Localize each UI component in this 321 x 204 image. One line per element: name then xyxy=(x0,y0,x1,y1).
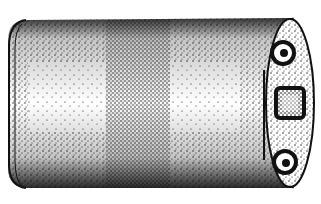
illustration xyxy=(0,0,321,204)
cylinder-body xyxy=(8,18,307,188)
cylinder-drawing xyxy=(0,0,321,204)
top-fitting xyxy=(272,42,294,64)
bottom-fitting xyxy=(274,151,296,173)
middle-nut xyxy=(276,88,304,118)
